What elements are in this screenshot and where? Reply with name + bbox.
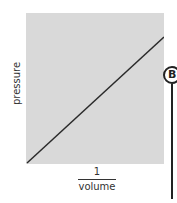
annotation-marker: B <box>163 66 177 84</box>
annotation-line <box>171 84 173 199</box>
data-line <box>26 13 164 164</box>
x-axis-label-numerator: 1 <box>78 166 116 178</box>
x-axis-label-denominator: volume <box>78 181 116 193</box>
x-axis-label: 1 volume <box>78 166 116 193</box>
fraction-bar <box>78 179 116 180</box>
plot-area <box>26 13 164 164</box>
y-axis-label: pressure <box>11 54 22 114</box>
